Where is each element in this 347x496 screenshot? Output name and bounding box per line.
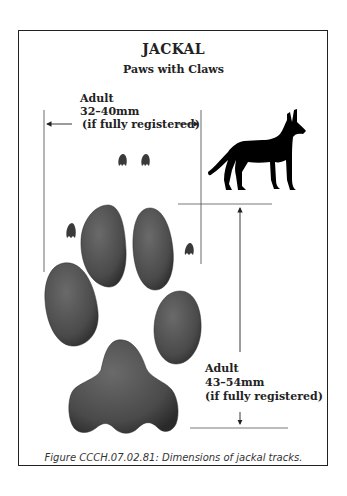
figure-caption: Figure CCCH.07.02.81: Dimensions of jack… bbox=[0, 452, 347, 463]
toe-pad-front-right bbox=[133, 208, 173, 290]
toe-pad-front-left bbox=[81, 205, 126, 287]
toe-pad-outer-right bbox=[154, 291, 201, 364]
claw-icon bbox=[118, 154, 126, 166]
track-diagram bbox=[0, 0, 347, 496]
jackal-silhouette-icon bbox=[208, 109, 306, 190]
claw-icon bbox=[141, 154, 149, 166]
claw-icon bbox=[185, 243, 194, 255]
claw-icon bbox=[66, 223, 75, 238]
